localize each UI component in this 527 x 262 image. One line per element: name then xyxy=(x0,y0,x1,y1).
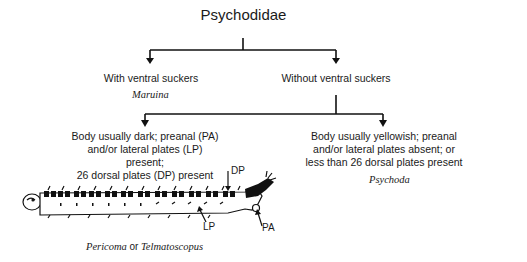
genus-maruina: Maruina xyxy=(132,89,169,100)
option-without-ventral-suckers: Without ventral suckers xyxy=(276,72,396,85)
genus-psychoda: Psychoda xyxy=(369,174,410,185)
label-dp: DP xyxy=(231,165,245,176)
option-with-ventral-suckers: With ventral suckers xyxy=(96,72,206,85)
text-line: Body usually dark; preanal (PA) xyxy=(70,130,220,143)
genus-pericoma: Pericoma xyxy=(86,241,127,252)
label-lp: LP xyxy=(203,221,215,232)
option-body-yellowish: Body usually yellowish; preanal and/or l… xyxy=(304,130,464,169)
genus-caption: Pericoma or Telmatoscopus xyxy=(86,241,203,252)
text-line: and/or lateral plates absent; or xyxy=(304,143,464,156)
genus-telmatoscopus: Telmatoscopus xyxy=(141,241,203,252)
text-line: and/or lateral plates (LP) present; xyxy=(70,143,220,169)
label-pa: PA xyxy=(262,222,275,233)
conjunction: or xyxy=(129,241,138,252)
text-line: less than 26 dorsal plates present xyxy=(304,156,464,169)
text-line: 26 dorsal plates (DP) present xyxy=(70,169,220,182)
option-body-dark: Body usually dark; preanal (PA) and/or l… xyxy=(70,130,220,182)
text-line: Body usually yellowish; preanal xyxy=(304,130,464,143)
